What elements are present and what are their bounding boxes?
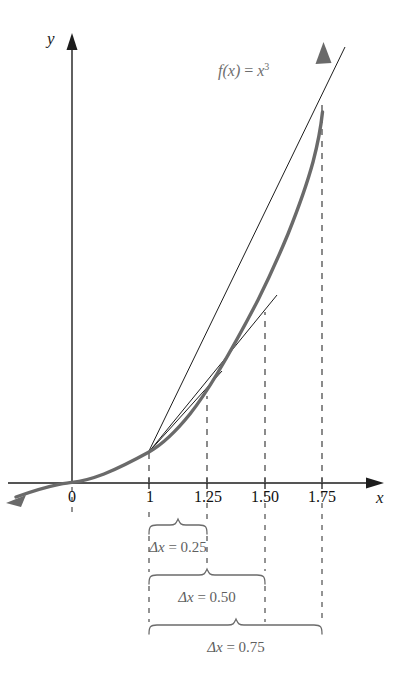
brace-0-25-value: 0.25 — [181, 539, 207, 555]
brace-label-delta-0-50: Δx = 0.50 — [178, 590, 236, 605]
dashed-drop-lines — [149, 100, 322, 483]
x-axis-arrowhead — [366, 478, 384, 489]
x-tick-label-1-50: 1.50 — [251, 489, 279, 505]
curve-arrowhead-top — [316, 42, 332, 64]
brace-0-75-equals: = — [226, 639, 234, 655]
brace-delta-0-75 — [149, 619, 322, 634]
secant-lines-group — [148, 47, 345, 453]
braces-group — [149, 519, 322, 634]
cubic-curve — [16, 112, 323, 497]
y-axis-arrowhead — [67, 33, 78, 50]
cubic-curve-group — [6, 42, 332, 507]
brace-0-50-value: 0.50 — [210, 589, 236, 605]
x-tick-label-1: 1 — [146, 489, 154, 505]
brace-0-25-delta: Δx — [149, 539, 164, 555]
brace-0-25-equals: = — [168, 539, 176, 555]
math-figure: y x 0 1 1.25 1.50 1.75 f(x) = x3 Δx = 0.… — [0, 0, 411, 695]
x-tick-label-1-25: 1.25 — [194, 489, 222, 505]
secant-line-0-75 — [148, 47, 345, 453]
x-axis-label: x — [376, 489, 384, 506]
curve-label-exponent: 3 — [264, 61, 269, 72]
brace-0-50-delta: Δx — [178, 589, 193, 605]
brace-0-75-delta: Δx — [207, 639, 222, 655]
secant-line-0-50 — [148, 295, 277, 453]
curve-equation-label: f(x) = x3 — [218, 62, 269, 79]
axes-group — [8, 33, 384, 512]
brace-0-50-equals: = — [197, 589, 205, 605]
x-tick-label-1-75: 1.75 — [308, 489, 336, 505]
curve-label-equals: = — [244, 62, 253, 79]
brace-0-75-value: 0.75 — [239, 639, 265, 655]
brace-delta-0-50 — [149, 569, 265, 584]
origin-label: 0 — [68, 489, 76, 505]
brace-delta-0-25 — [149, 519, 207, 534]
brace-label-delta-0-75: Δx = 0.75 — [207, 640, 265, 655]
curve-label-fn: f(x) — [218, 62, 240, 79]
brace-label-delta-0-25: Δx = 0.25 — [149, 540, 207, 555]
y-axis-label: y — [47, 30, 55, 47]
